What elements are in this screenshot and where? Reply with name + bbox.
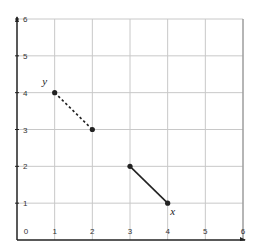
y-tick-label: 5 [23, 52, 28, 61]
series-label-y: y [41, 75, 47, 87]
chart: 0123456123456 yx [0, 0, 253, 250]
y-tick-label: 1 [23, 199, 28, 208]
x-tick-label: 2 [90, 227, 95, 236]
data-point-y [52, 90, 57, 95]
x-tick-label: 4 [165, 227, 170, 236]
y-tick-label: 2 [23, 162, 28, 171]
segment-x [130, 166, 168, 203]
x-tick-label: 0 [24, 227, 29, 236]
grid [17, 19, 243, 240]
data-point-x [127, 164, 132, 169]
y-tick-label: 3 [23, 126, 28, 135]
y-tick-label: 6 [23, 15, 28, 24]
series-label-x: x [169, 205, 175, 217]
y-tick-label: 4 [23, 89, 28, 98]
data-series: yx [41, 75, 175, 218]
data-point-y [90, 127, 95, 132]
x-tick-label: 1 [52, 227, 57, 236]
x-tick-label: 3 [128, 227, 133, 236]
x-tick-label: 6 [241, 227, 246, 236]
x-tick-label: 5 [203, 227, 208, 236]
segment-y [55, 93, 93, 130]
